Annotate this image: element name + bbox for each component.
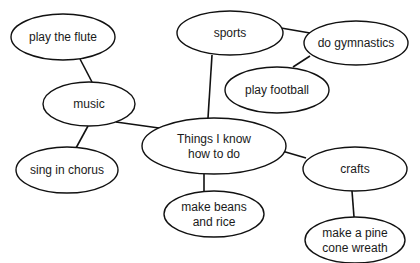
- edge-center-to-crafts: [282, 151, 306, 158]
- node-label: play football: [245, 83, 309, 97]
- edge-music-to-sing-in-chorus: [76, 126, 88, 148]
- node-label: make a pine: [322, 226, 388, 240]
- node-make-a-pine-cone-wreath: make a pinecone wreath: [305, 217, 405, 263]
- node-play-football: play football: [225, 67, 329, 113]
- edge-center-to-music: [116, 122, 159, 128]
- edge-music-to-play-the-flute: [80, 59, 92, 82]
- node-sports: sports: [177, 11, 283, 55]
- edge-do-gymnastics-to-play-football: [293, 56, 310, 67]
- node-music: music: [43, 82, 135, 126]
- node-crafts: crafts: [303, 147, 407, 191]
- node-center: Things I knowhow to do: [142, 118, 286, 174]
- node-do-gymnastics: do gymnastics: [304, 21, 408, 65]
- node-play-the-flute: play the flute: [11, 14, 115, 60]
- node-label: music: [73, 97, 104, 111]
- nodes-layer: Things I knowhow to domusicplay the flut…: [11, 11, 408, 263]
- node-label: crafts: [340, 162, 369, 176]
- node-label: do gymnastics: [318, 36, 395, 50]
- mind-map-diagram: Things I knowhow to domusicplay the flut…: [0, 0, 420, 263]
- node-label: Things I know: [177, 132, 251, 146]
- node-label: how to do: [188, 147, 240, 161]
- node-sing-in-chorus: sing in chorus: [16, 147, 118, 193]
- node-label: sing in chorus: [30, 163, 104, 177]
- node-label: and rice: [193, 215, 236, 229]
- node-make-beans-and-rice: make beansand rice: [164, 191, 264, 237]
- node-label: sports: [214, 26, 247, 40]
- node-label: make beans: [181, 200, 246, 214]
- edge-crafts-to-make-a-pine-cone-wreath: [352, 191, 354, 217]
- node-label: cone wreath: [322, 241, 387, 255]
- edge-center-to-sports: [208, 55, 212, 118]
- edge-sports-to-do-gymnastics: [281, 28, 310, 33]
- node-label: play the flute: [29, 30, 97, 44]
